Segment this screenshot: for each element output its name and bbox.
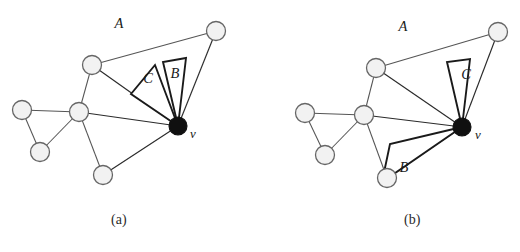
graph-node-n4 (13, 101, 32, 120)
panel-b: ABCv (296, 18, 508, 188)
region-label-a: A (114, 15, 124, 31)
graph-node-n6 (94, 166, 113, 185)
graph-node-n2 (207, 22, 226, 41)
region-label-c: C (143, 70, 153, 86)
figure-root: ABCvABCv (a) (b) (0, 0, 520, 252)
graph-node-n1 (367, 59, 386, 78)
graph-node-n5 (31, 143, 50, 162)
graph-node-n1 (83, 56, 102, 75)
vertex-v-node (453, 118, 471, 136)
edge-n1-n2 (376, 32, 498, 68)
vertex-label-v: v (190, 126, 196, 141)
region-label-a: A (398, 18, 408, 34)
edge-n6-v (103, 126, 178, 175)
graph-figure-canvas: ABCvABCv (0, 0, 520, 252)
graph-node-n4 (296, 104, 315, 123)
edge-n1-n2 (92, 31, 216, 65)
panel-a: ABCv (13, 15, 226, 185)
region-label-b: B (171, 65, 180, 81)
graph-node-n5 (316, 146, 335, 165)
region-label-b: B (400, 159, 409, 175)
vertex-v-node (169, 117, 187, 135)
region-label-c: C (461, 66, 471, 82)
graph-node-n3 (70, 103, 89, 122)
panel-a-caption: (a) (111, 212, 127, 228)
graph-node-n2 (489, 23, 508, 42)
vertex-label-v: v (475, 127, 481, 142)
panel-b-caption: (b) (404, 212, 420, 228)
graph-node-n3 (355, 106, 374, 125)
graph-node-n6 (378, 169, 397, 188)
